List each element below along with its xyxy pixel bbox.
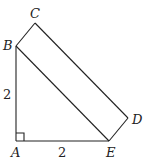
label-B: B: [2, 38, 13, 53]
segment-BE: [16, 46, 109, 141]
label-C: C: [30, 6, 40, 21]
length-AB: 2: [3, 87, 11, 102]
label-D: D: [131, 112, 143, 127]
geometry-diagram: C B D A E 2 2: [0, 0, 146, 160]
segment-DE: [109, 118, 128, 141]
segment-CD: [35, 23, 128, 118]
label-A: A: [10, 145, 20, 160]
right-angle-marker: [16, 133, 24, 141]
segment-BC: [16, 23, 35, 46]
length-AE: 2: [58, 145, 66, 160]
label-E: E: [105, 145, 116, 160]
